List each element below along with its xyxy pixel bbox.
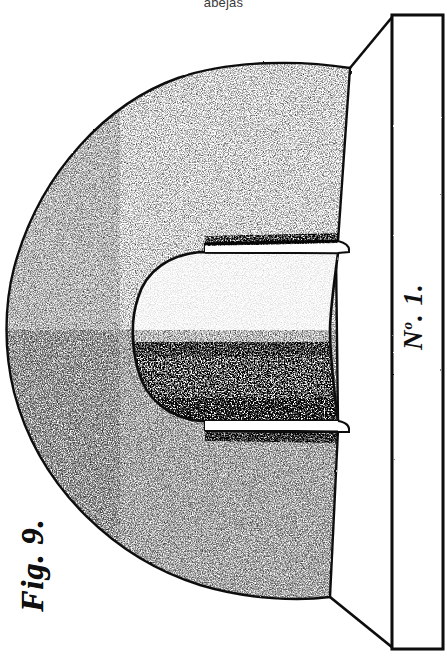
lower-diagonal bbox=[330, 597, 393, 648]
bar-label-prefix: N bbox=[398, 330, 428, 351]
engraving-figure bbox=[0, 0, 447, 656]
bar-number-label: No. 1. bbox=[398, 283, 429, 350]
upper-diagonal bbox=[350, 16, 393, 68]
figure-number-label: Fig. 9. bbox=[14, 519, 51, 612]
page-canvas: abejas bbox=[0, 0, 447, 656]
bar-label-superscript: o bbox=[399, 321, 415, 329]
right-lip bbox=[338, 241, 349, 432]
lower-slot bbox=[205, 421, 338, 443]
bar-label-suffix: . 1. bbox=[398, 283, 428, 321]
upper-slot bbox=[205, 233, 338, 254]
